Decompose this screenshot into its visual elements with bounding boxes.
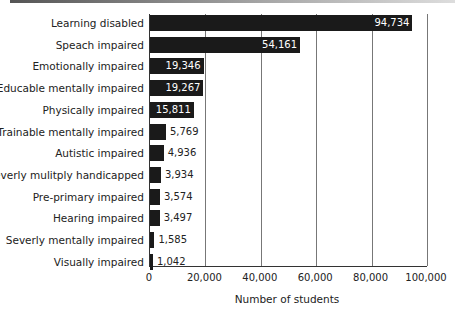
x-tick-label: 40,000	[242, 272, 277, 283]
value-label: 1,585	[158, 232, 187, 248]
top-rule	[10, 0, 455, 3]
category-label: Hearing impaired	[53, 210, 144, 226]
bar	[150, 15, 412, 31]
bar	[150, 232, 154, 248]
value-label: 54,161	[262, 37, 297, 53]
value-label: 3,934	[165, 167, 194, 183]
bar	[150, 167, 161, 183]
value-label: 19,346	[166, 58, 201, 74]
x-axis-label: Number of students	[235, 293, 340, 305]
gridline	[372, 14, 373, 266]
x-tick-label: 60,000	[298, 272, 333, 283]
category-label: Visually impaired	[54, 254, 144, 270]
x-tick-label: 100,000	[405, 272, 446, 283]
category-label: Educable mentally impaired	[0, 80, 144, 96]
value-label: 4,936	[168, 145, 197, 161]
gridline	[316, 14, 317, 266]
value-label: 5,769	[170, 124, 199, 140]
category-label: Speach impaired	[56, 37, 144, 53]
x-tick-label: 20,000	[187, 272, 222, 283]
x-tick-label: 0	[146, 272, 152, 283]
gridline	[427, 14, 428, 266]
bar	[150, 254, 153, 270]
category-label: Physically impaired	[42, 102, 144, 118]
value-label: 19,267	[165, 80, 200, 96]
category-label: Emotionally impaired	[32, 58, 144, 74]
value-label: 3,574	[164, 189, 193, 205]
plot-area: 94,73454,16119,34619,26715,8115,7694,936…	[149, 14, 427, 267]
value-label: 94,734	[374, 15, 409, 31]
category-label: Autistic impaired	[55, 145, 144, 161]
value-label: 1,042	[157, 254, 186, 270]
category-label: Severly mentally impaired	[6, 232, 144, 248]
bar	[150, 124, 166, 140]
x-tick-label: 80,000	[353, 272, 388, 283]
value-label: 15,811	[156, 102, 191, 118]
category-label: Trainable mentally impaired	[0, 124, 144, 140]
category-label: Learning disabled	[51, 15, 144, 31]
bar	[150, 189, 160, 205]
category-label: Severly mulitply handicapped	[0, 167, 144, 183]
bar	[150, 210, 160, 226]
category-label: Pre-primary impaired	[33, 189, 144, 205]
bar	[150, 145, 164, 161]
value-label: 3,497	[164, 210, 193, 226]
